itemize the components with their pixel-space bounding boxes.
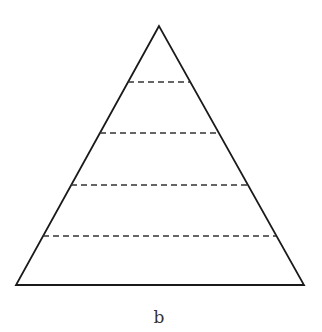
dashed-level-lines — [43, 82, 276, 236]
pyramid-diagram: b — [0, 0, 322, 332]
triangle-outline — [16, 26, 304, 285]
figure-label: b — [154, 307, 165, 327]
